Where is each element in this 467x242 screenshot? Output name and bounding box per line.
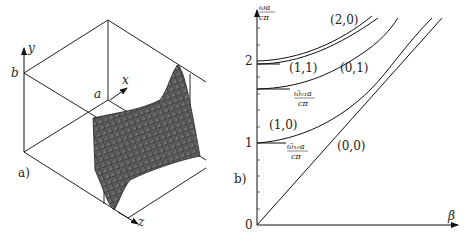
x-axis-label: β [447,209,455,223]
curve-label-20: (2,0) [330,13,358,27]
cutoff-10-den: cπ [291,152,301,161]
cutoff-01-den: cπ [298,99,308,108]
tick-2: 2 [245,54,253,68]
mode-surface [93,65,200,210]
y-axis-label-den: cπ [259,13,269,22]
mark-a: a [94,87,101,101]
tick-1: 1 [245,136,253,150]
cutoff-01-num: ω̄₀₁a [294,89,312,98]
tick-0: 0 [245,218,253,232]
curve-label-00: (0,0) [337,139,365,153]
figure: y x z b a a) 0 1 2 ωa cπ β (2,0) (1,1) (… [0,0,467,242]
cutoff-10-num: ω̄₁₀a [287,142,305,151]
y-axis-label-num: ωa [259,3,271,12]
panel-a-label: a) [18,166,30,180]
axis-label-y: y [27,41,35,55]
axis-label-z: z [137,215,145,229]
axis-label-x: x [122,73,129,87]
panel-b-label: b) [234,172,246,186]
curve-label-01: (0,1) [340,61,368,75]
mark-b: b [11,66,19,80]
curve-label-11: (1,1) [289,61,317,75]
curve-label-10: (1,0) [269,118,297,132]
x-axis-arrow [110,88,127,100]
